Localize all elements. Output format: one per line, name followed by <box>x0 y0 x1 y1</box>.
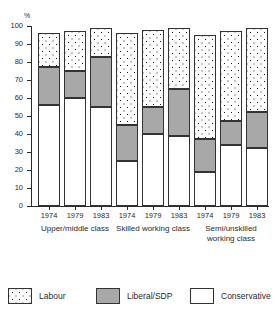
bar-segment-liberal-sdp <box>194 139 216 171</box>
y-axis-tick-label: 20 <box>1 165 23 174</box>
y-axis-tick-label: 10 <box>1 183 23 192</box>
bar-segment-conservative <box>168 136 190 206</box>
legend-swatch-labour-icon <box>8 288 32 304</box>
bar-segment-conservative <box>64 98 86 206</box>
x-axis-tick <box>153 206 154 210</box>
y-axis-tick <box>27 26 31 27</box>
x-axis-tick <box>205 206 206 210</box>
chart-legend: Labour Liberal/SDP Conservative <box>8 288 270 312</box>
bar-segment-labour <box>142 30 164 107</box>
y-axis-tick-label: 40 <box>1 129 23 138</box>
y-axis-tick <box>27 98 31 99</box>
legend-label-labour: Labour <box>39 291 65 301</box>
bar-segment-liberal-sdp <box>38 67 60 105</box>
bar-segment-labour <box>194 35 216 139</box>
bar-segment-labour <box>168 28 190 89</box>
y-axis-tick-label: 50 <box>1 111 23 120</box>
x-axis-year-label: 1983 <box>240 211 274 220</box>
bar-segment-labour <box>220 31 242 121</box>
bar-segment-labour <box>90 28 112 57</box>
y-axis-tick <box>27 80 31 81</box>
y-axis-tick-label: 100 <box>1 21 23 30</box>
legend-item-labour: Labour <box>8 288 65 304</box>
legend-item-liberal-sdp: Liberal/SDP <box>96 288 172 304</box>
x-axis-tick <box>231 206 232 210</box>
bar-segment-labour <box>246 28 268 113</box>
bar-segment-conservative <box>142 134 164 206</box>
y-axis-tick-label: 0 <box>1 201 23 210</box>
y-axis-tick <box>27 170 31 171</box>
bar-segment-liberal-sdp <box>220 121 242 144</box>
x-axis-tick <box>257 206 258 210</box>
legend-label-conservative: Conservative <box>221 291 271 301</box>
stacked-bar-chart: % Labour Liberal/SDP Conservative 010203… <box>0 0 276 319</box>
x-axis-tick <box>49 206 50 210</box>
bar-segment-liberal-sdp <box>90 57 112 107</box>
bar-segment-labour <box>116 33 138 125</box>
y-axis-tick-label: 90 <box>1 39 23 48</box>
bar-segment-conservative <box>220 145 242 206</box>
bar-segment-labour <box>38 33 60 67</box>
bar-segment-conservative <box>38 105 60 206</box>
y-axis-tick-label: 70 <box>1 75 23 84</box>
y-axis-tick <box>27 44 31 45</box>
y-axis-tick-label: 80 <box>1 57 23 66</box>
y-axis-tick-label: 30 <box>1 147 23 156</box>
x-axis-tick <box>101 206 102 210</box>
legend-swatch-liberal-sdp-icon <box>96 288 120 304</box>
x-axis-group-label: Semi/unskilledworking class <box>176 224 276 244</box>
y-axis-tick <box>27 152 31 153</box>
bar-segment-conservative <box>90 107 112 206</box>
bar-segment-liberal-sdp <box>64 71 86 98</box>
y-axis-tick <box>27 206 31 207</box>
bar-segment-liberal-sdp <box>168 89 190 136</box>
y-axis-unit-label: % <box>24 12 30 19</box>
bar-segment-labour <box>64 31 86 71</box>
y-axis-tick <box>27 116 31 117</box>
bar-segment-liberal-sdp <box>246 112 268 148</box>
legend-item-conservative: Conservative <box>190 288 271 304</box>
bar-segment-conservative <box>246 148 268 206</box>
bar-segment-liberal-sdp <box>116 125 138 161</box>
y-axis-tick-label: 60 <box>1 93 23 102</box>
x-axis-line <box>31 206 269 207</box>
y-axis-tick <box>27 188 31 189</box>
x-axis-tick <box>127 206 128 210</box>
legend-label-liberal-sdp: Liberal/SDP <box>127 291 172 301</box>
x-axis-tick <box>179 206 180 210</box>
bar-segment-conservative <box>116 161 138 206</box>
y-axis-tick <box>27 62 31 63</box>
legend-swatch-conservative-icon <box>190 288 214 304</box>
bar-segment-liberal-sdp <box>142 107 164 134</box>
bar-segment-conservative <box>194 172 216 206</box>
y-axis-tick <box>27 134 31 135</box>
x-axis-tick <box>75 206 76 210</box>
